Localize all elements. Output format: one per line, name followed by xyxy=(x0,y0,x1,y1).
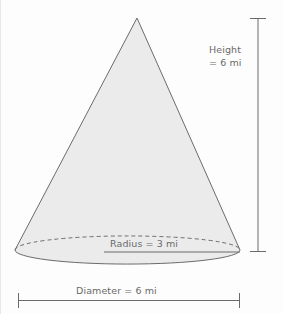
cone-solid xyxy=(15,18,240,264)
height-label-line1: Height xyxy=(209,44,242,57)
cone-body-fill xyxy=(15,18,240,264)
height-label: Height = 6 mi xyxy=(209,44,242,69)
radius-label: Radius = 3 mi xyxy=(110,238,178,251)
height-dimension xyxy=(250,18,266,252)
diameter-label: Diameter = 6 mi xyxy=(76,285,157,298)
cone-diagram-page: Height = 6 mi Radius = 3 mi Diameter = 6… xyxy=(0,0,283,314)
height-label-line2: = 6 mi xyxy=(209,57,242,70)
